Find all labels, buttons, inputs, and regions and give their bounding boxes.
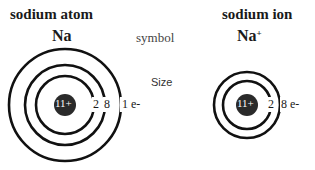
ion-shell-1-label: 2 <box>267 97 275 112</box>
ion-nucleus-label: 11+ <box>237 97 254 109</box>
atom-nucleus-label: 11+ <box>55 97 72 109</box>
atom-shell-1-label: 2 <box>92 97 100 112</box>
ion-shell-2-label: 8 e- <box>280 97 300 112</box>
atom-shell-2-label: 8 <box>103 97 111 112</box>
atom-shell-3-label: 1 e- <box>120 97 142 112</box>
bohr-diagrams <box>0 0 315 170</box>
